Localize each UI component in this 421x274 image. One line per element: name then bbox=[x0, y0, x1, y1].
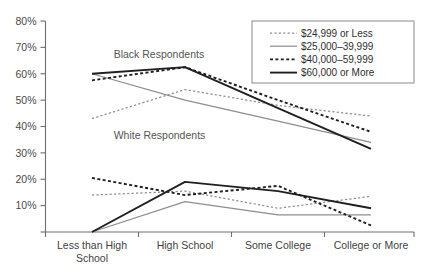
x-tick-label: High School bbox=[157, 239, 214, 251]
x-tick-label: Less than High bbox=[57, 239, 127, 251]
x-axis-ticks: Less than HighSchoolHigh SchoolSome Coll… bbox=[46, 232, 415, 264]
series-line bbox=[92, 202, 371, 232]
group-annotation-label: Black Respondents bbox=[114, 48, 204, 60]
y-tick-label: 40% bbox=[15, 120, 36, 132]
y-tick-label: 20% bbox=[15, 173, 36, 185]
y-tick-label: 10% bbox=[15, 199, 36, 211]
group-annotation-label: White Respondents bbox=[114, 129, 206, 141]
y-tick-label: 30% bbox=[15, 147, 36, 159]
legend-label: $40,000–59,999 bbox=[301, 54, 374, 65]
x-tick-label: School bbox=[76, 252, 108, 264]
legend: $24,999 or Less$25,000–39,999$40,000–59,… bbox=[252, 21, 414, 83]
y-tick-label: 70% bbox=[15, 41, 36, 53]
y-tick-label: 50% bbox=[15, 94, 36, 106]
series-group-white-respondents bbox=[92, 178, 371, 232]
legend-label: $60,000 or More bbox=[301, 67, 375, 78]
line-chart: 10%20%30%40%50%60%70%80%Less than HighSc… bbox=[0, 0, 421, 274]
axes bbox=[46, 21, 415, 232]
legend-label: $25,000–39,999 bbox=[301, 41, 374, 52]
y-tick-label: 60% bbox=[15, 68, 36, 80]
legend-label: $24,999 or Less bbox=[301, 28, 373, 39]
y-axis-ticks: 10%20%30%40%50%60%70%80% bbox=[15, 15, 45, 232]
series-line bbox=[92, 90, 371, 119]
x-tick-label: College or More bbox=[334, 239, 409, 251]
plot-area bbox=[92, 67, 371, 232]
group-annotations: Black RespondentsWhite Respondents bbox=[114, 48, 206, 141]
chart-canvas: 10%20%30%40%50%60%70%80%Less than HighSc… bbox=[0, 0, 421, 274]
y-tick-label: 80% bbox=[15, 15, 36, 27]
x-tick-label: Some College bbox=[245, 239, 311, 251]
